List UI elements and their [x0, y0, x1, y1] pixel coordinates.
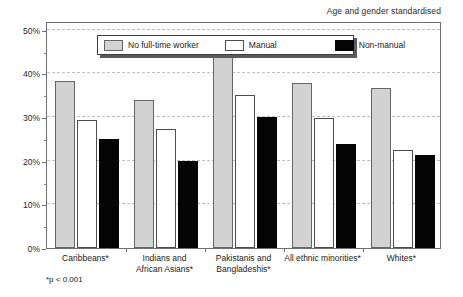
y-axis-tick — [42, 249, 46, 250]
legend-label: Manual — [249, 40, 277, 50]
y-axis-minor-tick — [44, 227, 47, 228]
x-axis-category-label: Caribbeans* — [46, 253, 125, 264]
y-axis-minor-tick — [44, 53, 47, 54]
x-axis-category-label: Pakistanis and Bangladeshis* — [204, 253, 283, 274]
chart-legend: No full-time workerManualNon-manual — [97, 35, 354, 55]
legend-item-nofulltime: No full-time worker — [104, 40, 199, 51]
y-axis-minor-tick — [44, 140, 47, 141]
chart-footnote: *p < 0.001 — [46, 275, 83, 284]
bar-manual — [314, 118, 334, 248]
y-axis-tick — [42, 205, 46, 206]
y-axis-minor-tick — [44, 96, 47, 97]
y-axis-tick — [42, 31, 46, 32]
y-axis-tick — [42, 162, 46, 163]
bar-nonmanual — [257, 117, 277, 248]
gridline — [47, 72, 440, 73]
x-axis-tick — [126, 248, 127, 252]
x-axis-tick — [363, 248, 364, 252]
x-axis-category-label: All ethnic minorities* — [283, 253, 362, 264]
bar-manual — [393, 150, 413, 248]
y-axis-minor-tick — [44, 184, 47, 185]
bar-nonmanual — [99, 139, 119, 248]
y-axis-tick — [42, 118, 46, 119]
bar-nonmanual — [336, 144, 356, 248]
y-axis-tick-label: 30% — [0, 113, 40, 123]
x-axis-category-label: Indians and African Asians* — [125, 253, 204, 274]
x-axis-tick — [205, 248, 206, 252]
legend-item-nonmanual: Non-manual — [335, 40, 405, 51]
y-axis-tick-label: 50% — [0, 26, 40, 36]
y-axis-tick-label: 40% — [0, 69, 40, 79]
x-axis-category-label: Whites* — [362, 253, 441, 264]
y-axis-tick — [42, 74, 46, 75]
bar-manual — [156, 129, 176, 248]
legend-swatch-nonmanual — [335, 40, 354, 51]
legend-label: No full-time worker — [128, 40, 199, 50]
y-axis-tick-label: 0% — [0, 244, 40, 254]
legend-label: Non-manual — [359, 40, 405, 50]
bar-manual — [77, 120, 97, 248]
y-axis-tick-label: 20% — [0, 157, 40, 167]
legend-item-manual: Manual — [225, 40, 277, 51]
bar-nonmanual — [178, 161, 198, 248]
bar-nofulltime — [213, 56, 233, 249]
bar-nofulltime — [134, 100, 154, 248]
bar-nofulltime — [292, 83, 312, 248]
y-axis-tick-label: 10% — [0, 200, 40, 210]
chart-top-caption: Age and gender standardised — [327, 6, 441, 16]
bar-nofulltime — [371, 88, 391, 248]
legend-swatch-nofulltime — [104, 40, 123, 51]
bar-nonmanual — [415, 155, 435, 248]
gridline — [47, 29, 440, 30]
bar-nofulltime — [55, 81, 75, 248]
legend-swatch-manual — [225, 40, 244, 51]
chart-screenshot: Age and gender standardised 0%10%20%30%4… — [0, 0, 463, 297]
bar-manual — [235, 95, 255, 248]
x-axis-tick — [284, 248, 285, 252]
